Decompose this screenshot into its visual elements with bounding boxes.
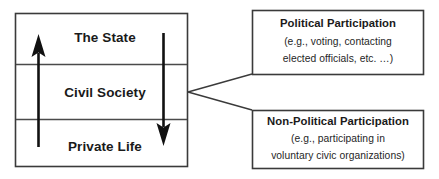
civil-society-branch-connector: [188, 74, 252, 110]
upward-arrow: [32, 34, 46, 147]
non-political-participation-line-1: (e.g., participating in: [291, 133, 385, 144]
society-participation-diagram: The State Civil Society Private Life Pol…: [0, 0, 439, 179]
connector-to-political: [188, 74, 252, 92]
political-participation-title: Political Participation: [280, 17, 396, 29]
political-participation-line-1: (e.g., voting, contacting: [284, 36, 392, 47]
non-political-participation-title: Non-Political Participation: [267, 115, 409, 127]
diagram-canvas: The State Civil Society Private Life Pol…: [0, 0, 439, 179]
tier-label-civil-society: Civil Society: [64, 85, 146, 100]
tier-label-private-life: Private Life: [68, 139, 142, 154]
downward-arrow: [157, 33, 171, 146]
non-political-participation-callout: Non-Political Participation (e.g., parti…: [253, 111, 424, 169]
political-participation-line-2: elected officials, etc. …): [283, 53, 393, 64]
political-participation-callout: Political Participation (e.g., voting, c…: [253, 11, 424, 75]
non-political-participation-line-2: voluntary civic organizations): [271, 150, 405, 161]
connector-to-non-political: [188, 92, 252, 110]
tier-label-the-state: The State: [74, 30, 136, 45]
